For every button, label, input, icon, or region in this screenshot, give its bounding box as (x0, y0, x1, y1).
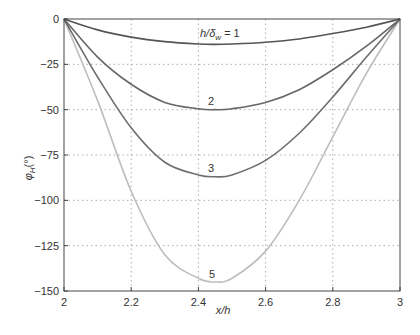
y-tick-label: −150 (34, 285, 59, 297)
curve-label-2: 2 (208, 95, 214, 107)
x-axis-ticks: 22.22.42.62.83 (61, 287, 403, 308)
grid-lines (64, 19, 400, 291)
line-chart: 22.22.42.62.83 0−25−50−75−100−125−150 h/… (0, 0, 420, 335)
x-axis-label: x/h (215, 304, 231, 316)
y-axis-ticks: 0−25−50−75−100−125−150 (34, 13, 68, 297)
x-tick-label: 2 (61, 296, 67, 308)
curve-label-1: h/δw = 1 (200, 27, 240, 42)
y-tick-label: −125 (34, 240, 59, 252)
y-tick-label: −50 (40, 104, 59, 116)
x-tick-label: 2.2 (124, 296, 139, 308)
curves (64, 19, 400, 282)
x-tick-label: 3 (397, 296, 403, 308)
y-tick-label: −100 (34, 194, 59, 206)
curve-label-3: 3 (208, 162, 214, 174)
y-tick-label: −75 (40, 149, 59, 161)
y-tick-label: −25 (40, 58, 59, 70)
x-tick-label: 2.4 (191, 296, 206, 308)
y-axis-label: φH(°) (22, 156, 37, 181)
curve-label-5: 5 (209, 268, 215, 280)
x-tick-label: 2.6 (258, 296, 273, 308)
y-tick-label: 0 (53, 13, 59, 25)
curve-3 (64, 19, 400, 177)
x-tick-label: 2.8 (325, 296, 340, 308)
